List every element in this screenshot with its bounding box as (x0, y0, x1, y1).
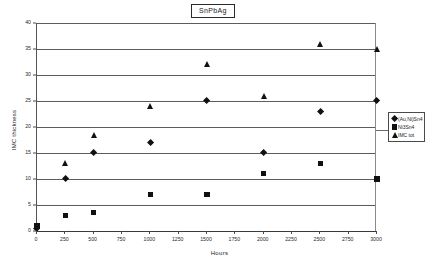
x-axis-title: Hours (0, 250, 439, 256)
triangle-marker (374, 46, 380, 52)
y-axis-tick-label: 40 (25, 20, 31, 25)
y-axis-tick-mark (33, 153, 36, 154)
gridline (37, 49, 375, 50)
y-axis-tick-label: 5 (28, 202, 31, 207)
gridline (37, 127, 375, 128)
diamond-marker (317, 108, 324, 115)
gridline-top (37, 23, 375, 24)
square-marker (63, 213, 68, 218)
diamond-marker (373, 97, 380, 104)
x-axis-tick-mark (93, 231, 94, 234)
triangle-marker (261, 93, 267, 99)
y-axis-tick-mark (33, 205, 36, 206)
x-axis-tick-mark (319, 231, 320, 234)
gridline (37, 153, 375, 154)
gridline (37, 205, 375, 206)
y-axis-tick-label: 30 (25, 72, 31, 77)
x-axis-tick-mark (234, 231, 235, 234)
legend-connector-line (376, 130, 388, 131)
x-axis-tick-label: 750 (117, 236, 126, 242)
diamond-marker (391, 115, 398, 122)
x-axis-tick-label: 1250 (172, 236, 184, 242)
triangle-marker (62, 160, 68, 166)
x-axis-tick-label: 1000 (144, 236, 156, 242)
y-axis-tick-mark (33, 23, 36, 24)
y-axis-tick-label: 25 (25, 98, 31, 103)
diamond-marker (90, 149, 97, 156)
square-marker (318, 161, 323, 166)
diamond-marker (62, 175, 69, 182)
diamond-marker (260, 149, 267, 156)
square-marker (374, 176, 379, 181)
legend-entry-label: Ni3Sn4 (398, 124, 414, 130)
triangle-marker (204, 61, 210, 67)
chart-legend: (Au,Ni)Sn4Ni3Sn4IMC tot (388, 112, 425, 142)
diamond-marker (203, 97, 210, 104)
x-axis-tick-mark (36, 231, 37, 234)
x-axis-tick-label: 1750 (229, 236, 241, 242)
y-axis-tick-label: 10 (25, 176, 31, 181)
gridline (37, 75, 375, 76)
x-axis-tick-mark (291, 231, 292, 234)
y-axis-tick-label: 15 (25, 150, 31, 155)
square-marker (392, 124, 397, 129)
x-axis-tick-label: 2500 (314, 236, 326, 242)
x-axis-tick-mark (206, 231, 207, 234)
square-marker (148, 192, 153, 197)
triangle-icon (391, 131, 398, 139)
x-axis-tick-label: 500 (88, 236, 97, 242)
gridline (37, 179, 375, 180)
legend-entry: (Au,Ni)Sn4 (391, 115, 422, 123)
square-marker (204, 192, 209, 197)
triangle-marker (392, 132, 398, 138)
x-axis-tick-mark (178, 231, 179, 234)
diamond-marker (147, 139, 154, 146)
x-axis-tick-mark (263, 231, 264, 234)
y-axis-title: IMC thickness (11, 80, 17, 180)
x-axis-tick-label: 250 (60, 236, 69, 242)
square-marker (261, 171, 266, 176)
chart-container: SnPbAg Hours IMC thickness (Au,Ni)Sn4Ni3… (0, 0, 439, 264)
plot-area (36, 23, 376, 231)
x-axis-tick-mark (121, 231, 122, 234)
triangle-marker (91, 132, 97, 138)
y-axis-tick-mark (33, 179, 36, 180)
x-axis-tick-label: 2250 (285, 236, 297, 242)
legend-entry-label: (Au,Ni)Sn4 (398, 116, 422, 122)
x-axis-tick-label: 3000 (370, 236, 382, 242)
triangle-marker (317, 41, 323, 47)
x-axis-tick-mark (348, 231, 349, 234)
triangle-marker (34, 223, 40, 229)
square-icon (391, 123, 398, 131)
y-axis-tick-label: 0 (28, 228, 31, 233)
legend-entry: IMC tot (391, 131, 422, 139)
square-marker (91, 210, 96, 215)
y-axis-tick-label: 20 (25, 124, 31, 129)
y-axis-tick-mark (33, 75, 36, 76)
y-axis-tick-label: 35 (25, 46, 31, 51)
x-axis-tick-label: 0 (35, 236, 38, 242)
x-axis-tick-label: 1500 (200, 236, 212, 242)
x-axis-tick-mark (64, 231, 65, 234)
x-axis-tick-mark (376, 231, 377, 234)
legend-entry-label: IMC tot (398, 132, 414, 138)
y-axis-tick-mark (33, 49, 36, 50)
y-axis-tick-mark (33, 101, 36, 102)
legend-entry: Ni3Sn4 (391, 123, 422, 131)
diamond-icon (391, 115, 398, 123)
x-axis-tick-mark (149, 231, 150, 234)
x-axis-tick-label: 2000 (257, 236, 269, 242)
chart-title: SnPbAg (191, 4, 235, 18)
y-axis-tick-mark (33, 127, 36, 128)
triangle-marker (147, 103, 153, 109)
x-axis-tick-label: 2750 (342, 236, 354, 242)
